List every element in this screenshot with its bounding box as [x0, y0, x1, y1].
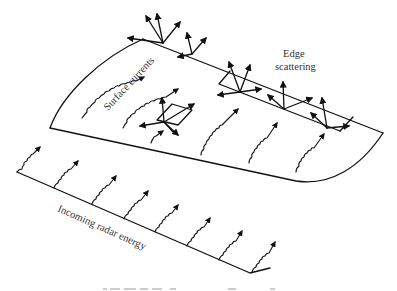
- caption-remnant: [103, 288, 275, 290]
- surface-currents-label: Surface currents: [101, 55, 156, 113]
- edge-scatter-site-3: [311, 98, 349, 128]
- corner-scatter-arrows: [128, 14, 206, 57]
- incoming-radar-arrows: [17, 147, 275, 272]
- radar-scattering-diagram: Surface currents Edge scattering Incomin…: [0, 0, 397, 291]
- incoming-radar-label: Incoming radar energy: [56, 203, 148, 252]
- edge-scattering-label-line1: Edge: [283, 48, 305, 59]
- edge-strip: [219, 71, 353, 131]
- plate-outline: [50, 39, 383, 182]
- edge-scattering-label-line2: scattering: [275, 61, 317, 72]
- incoming-wavefront-line: [17, 172, 270, 273]
